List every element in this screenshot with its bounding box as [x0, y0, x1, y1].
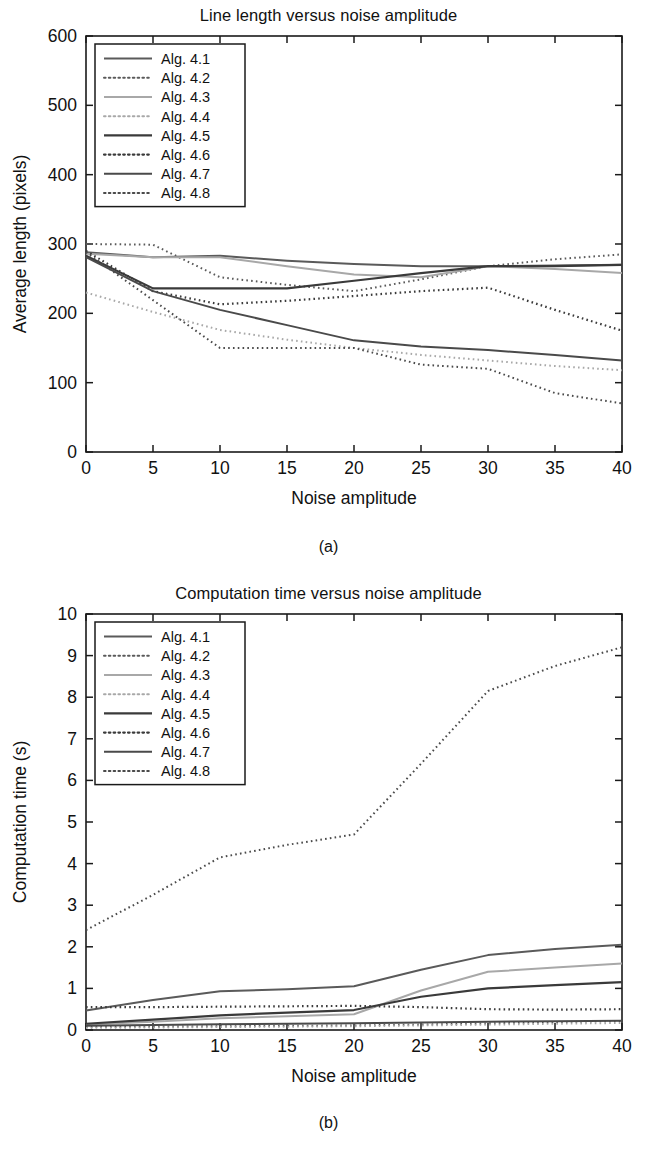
- x-tick-label: 0: [81, 1036, 91, 1056]
- legend-label-alg-4-8: Alg. 4.8: [161, 185, 210, 201]
- y-axis-title: Average length (pixels): [10, 155, 30, 334]
- series-line-alg-4-1: [86, 945, 622, 1011]
- x-tick-label: 35: [545, 458, 564, 478]
- x-tick-label: 5: [148, 458, 158, 478]
- caption-b: (b): [0, 1114, 657, 1132]
- legend-label-alg-4-3: Alg. 4.3: [161, 89, 210, 105]
- y-tick-label: 400: [48, 165, 77, 185]
- legend-label-alg-4-1: Alg. 4.1: [161, 51, 210, 67]
- x-tick-label: 20: [344, 1036, 364, 1056]
- y-tick-label: 5: [67, 812, 77, 832]
- x-tick-label: 40: [612, 458, 632, 478]
- legend-box: [95, 44, 245, 207]
- y-tick-label: 500: [48, 95, 77, 115]
- figure-b: Computation time versus noise amplitude …: [0, 578, 657, 1155]
- x-tick-label: 30: [478, 458, 498, 478]
- legend-label-alg-4-5: Alg. 4.5: [161, 706, 210, 722]
- x-tick-label: 10: [210, 1036, 230, 1056]
- y-tick-label: 0: [67, 442, 77, 462]
- chart-b-plot: 0510152025303540012345678910Noise amplit…: [0, 578, 657, 1098]
- x-tick-label: 5: [148, 1036, 158, 1056]
- y-tick-label: 8: [67, 687, 77, 707]
- legend-label-alg-4-4: Alg. 4.4: [161, 109, 210, 125]
- y-tick-label: 300: [48, 234, 77, 254]
- legend-box: [95, 622, 245, 785]
- legend-label-alg-4-5: Alg. 4.5: [161, 128, 210, 144]
- legend-label-alg-4-2: Alg. 4.2: [161, 70, 210, 86]
- x-tick-label: 20: [344, 458, 364, 478]
- figure-a: Line length versus noise amplitude 05101…: [0, 0, 657, 578]
- series-line-alg-4-7: [86, 257, 622, 360]
- x-tick-label: 0: [81, 458, 91, 478]
- y-tick-label: 4: [67, 854, 77, 874]
- x-axis-title: Noise amplitude: [291, 488, 416, 508]
- series-line-alg-4-5: [86, 982, 622, 1024]
- y-tick-label: 6: [67, 770, 77, 790]
- y-tick-label: 10: [58, 604, 78, 624]
- y-tick-label: 200: [48, 303, 77, 323]
- series-line-alg-4-1: [86, 252, 622, 266]
- x-tick-label: 35: [545, 1036, 564, 1056]
- legend-label-alg-4-6: Alg. 4.6: [161, 147, 210, 163]
- figure-page: Line length versus noise amplitude 05101…: [0, 0, 657, 1155]
- y-tick-label: 1: [67, 978, 77, 998]
- x-tick-label: 15: [277, 1036, 296, 1056]
- series-line-alg-4-3: [86, 963, 622, 1024]
- series-line-alg-4-4: [86, 293, 622, 371]
- x-tick-label: 10: [210, 458, 230, 478]
- y-tick-label: 7: [67, 729, 77, 749]
- legend-label-alg-4-4: Alg. 4.4: [161, 687, 210, 703]
- x-tick-label: 30: [478, 1036, 498, 1056]
- legend-label-alg-4-7: Alg. 4.7: [161, 166, 210, 182]
- y-axis-title: Computation time (s): [10, 741, 30, 903]
- y-tick-label: 100: [48, 373, 77, 393]
- y-tick-label: 3: [67, 895, 77, 915]
- y-tick-label: 0: [67, 1020, 77, 1040]
- legend-label-alg-4-1: Alg. 4.1: [161, 629, 210, 645]
- y-tick-label: 600: [48, 26, 77, 46]
- chart-b-canvas: 0510152025303540012345678910Noise amplit…: [0, 578, 657, 1098]
- x-tick-label: 25: [411, 458, 430, 478]
- x-tick-label: 25: [411, 1036, 430, 1056]
- series-line-alg-4-6: [86, 251, 622, 331]
- x-axis-title: Noise amplitude: [291, 1066, 416, 1086]
- caption-a: (a): [0, 538, 657, 556]
- chart-a-canvas: 05101520253035400100200300400500600Noise…: [0, 0, 657, 520]
- x-tick-label: 15: [277, 458, 296, 478]
- x-tick-label: 40: [612, 1036, 632, 1056]
- chart-a-plot: 05101520253035400100200300400500600Noise…: [0, 0, 657, 520]
- legend-label-alg-4-3: Alg. 4.3: [161, 667, 210, 683]
- legend-label-alg-4-8: Alg. 4.8: [161, 763, 210, 779]
- y-tick-label: 2: [67, 937, 77, 957]
- y-tick-label: 9: [67, 646, 77, 666]
- legend-label-alg-4-7: Alg. 4.7: [161, 744, 210, 760]
- legend-label-alg-4-2: Alg. 4.2: [161, 648, 210, 664]
- legend-label-alg-4-6: Alg. 4.6: [161, 725, 210, 741]
